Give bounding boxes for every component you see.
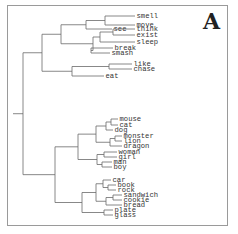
leaf-label-boy: boy <box>114 163 128 171</box>
leaf-label-glass: glass <box>115 211 137 219</box>
leaf-label-eat: eat <box>106 72 119 80</box>
dendrogram: smellmoveseethinkexistsleepbreaksmashlik… <box>0 0 238 234</box>
leaf-label-smell: smell <box>137 12 159 20</box>
leaf-label-smash: smash <box>112 49 134 57</box>
leaf-label-chase: chase <box>134 65 156 73</box>
leaf-label-sleep: sleep <box>137 38 159 46</box>
